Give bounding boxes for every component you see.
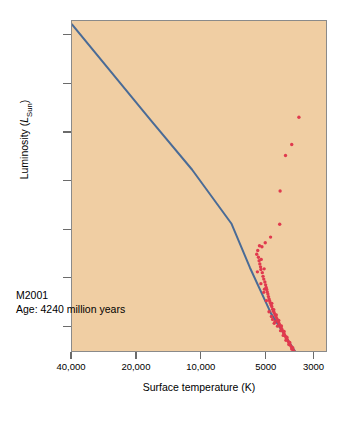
- star-data-point: [291, 346, 294, 349]
- hr-diagram-figure: Luminosity (LSun) 100,00010,000100010010…: [0, 0, 348, 421]
- star-data-point: [284, 339, 287, 342]
- star-data-point: [255, 253, 258, 256]
- cluster-annotation: M2001 Age: 4240 million years: [16, 288, 125, 316]
- star-data-point: [270, 302, 273, 305]
- x-axis-title: Surface temperature (K): [71, 381, 327, 393]
- star-data-point: [262, 277, 265, 280]
- x-axis-tick-mark: [200, 352, 201, 359]
- star-data-point: [278, 223, 281, 226]
- star-data-point: [285, 335, 288, 338]
- star-data-point: [258, 262, 261, 265]
- star-data-point: [263, 287, 266, 290]
- cluster-age: Age: 4240 million years: [16, 302, 125, 316]
- star-data-point: [262, 267, 265, 270]
- x-axis-tick-mark: [265, 352, 266, 359]
- y-axis-title-symbol: L: [18, 117, 30, 123]
- star-data-point: [282, 330, 285, 333]
- star-points-group: [255, 116, 301, 351]
- star-data-point: [261, 271, 264, 274]
- star-data-point: [273, 322, 276, 325]
- star-data-point: [262, 291, 265, 294]
- star-data-point: [270, 315, 273, 318]
- y-axis-title-suffix: ): [18, 100, 30, 104]
- y-axis-title-prefix: Luminosity (: [18, 123, 30, 180]
- star-data-point: [258, 244, 261, 247]
- cluster-name: M2001: [16, 288, 125, 302]
- star-data-point: [297, 116, 300, 119]
- star-data-point: [256, 249, 259, 252]
- star-data-point: [290, 143, 293, 146]
- y-axis-title: Luminosity (LSun): [18, 40, 33, 240]
- star-data-point: [277, 319, 280, 322]
- x-axis-tick-mark: [70, 352, 71, 359]
- star-data-point: [275, 313, 278, 316]
- x-axis-tick-mark: [313, 352, 314, 359]
- star-data-point: [265, 299, 268, 302]
- star-data-point: [256, 270, 259, 273]
- star-data-point: [282, 334, 285, 337]
- x-axis-tick-label: 40,000: [36, 361, 106, 372]
- star-data-point: [260, 258, 263, 261]
- star-data-point: [284, 154, 287, 157]
- star-data-point: [272, 308, 275, 311]
- star-data-point: [264, 241, 267, 244]
- x-axis-tick-label: 3000: [279, 361, 348, 372]
- star-data-point: [269, 235, 272, 238]
- star-data-point: [259, 268, 262, 271]
- x-axis-tick-mark: [135, 352, 136, 359]
- star-data-point: [259, 282, 262, 285]
- star-data-point: [257, 256, 260, 259]
- star-data-point: [267, 310, 270, 313]
- x-axis-tick-label: 20,000: [101, 361, 171, 372]
- star-data-point: [276, 324, 279, 327]
- y-axis-title-subscript: Sun: [25, 103, 34, 117]
- star-data-point: [279, 329, 282, 332]
- star-data-point: [278, 189, 281, 192]
- star-data-point: [280, 324, 283, 327]
- star-data-point: [288, 341, 291, 344]
- x-axis-tick-label: 10,000: [166, 361, 236, 372]
